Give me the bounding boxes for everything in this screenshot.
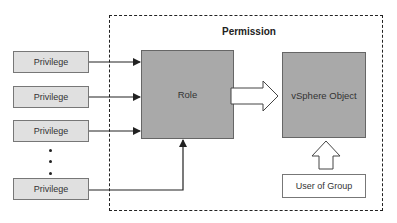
role-to-object-block-arrow-icon [231,81,278,111]
privilege-to-role-elbow-arrow [89,140,183,190]
user-to-object-block-arrow-icon [312,141,340,169]
connectors [0,0,397,223]
